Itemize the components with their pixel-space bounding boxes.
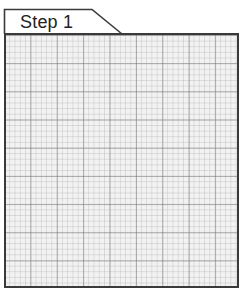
step-tab-label: Step 1 xyxy=(20,11,73,33)
graph-paper-grid xyxy=(4,33,239,288)
